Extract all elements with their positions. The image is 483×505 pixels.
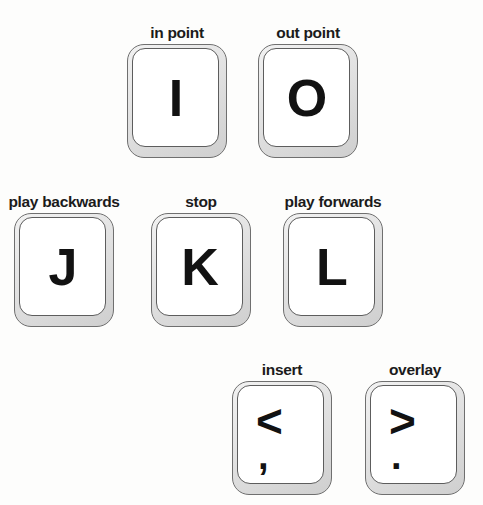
- key-period-keycap[interactable]: >.: [365, 381, 465, 495]
- key-comma-group: insert<,: [232, 381, 332, 495]
- key-comma-label: insert: [262, 362, 302, 378]
- row-insert-overlay: insert<,overlay>.: [0, 0, 483, 505]
- key-period-secondary-glyph: .: [391, 437, 402, 475]
- key-comma-face: <,: [237, 385, 324, 484]
- key-comma-secondary-glyph: ,: [258, 437, 269, 475]
- key-comma-keycap[interactable]: <,: [232, 381, 332, 495]
- key-period-label: overlay: [389, 362, 441, 378]
- keyboard-shortcut-diagram: in pointIout pointOplay backwardsJstopKp…: [0, 0, 483, 505]
- key-period-face: >.: [370, 385, 457, 484]
- key-period-group: overlay>.: [365, 381, 465, 495]
